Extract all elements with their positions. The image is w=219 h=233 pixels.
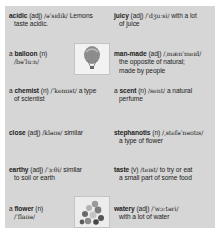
pronunciation: /ˈɜːθi/ (45, 166, 61, 173)
vocab-entry-close: close (adj) /kləʊs/ similar (9, 129, 109, 137)
headword: chemist (14, 87, 39, 94)
flower-illustration (74, 196, 110, 228)
pronunciation: /ˈwɔːtəri/ (151, 205, 178, 212)
flower-bouquet-icon (75, 197, 109, 227)
pronunciation: /ˈkemɪst/ (51, 87, 77, 94)
part-of-speech: (n) (35, 205, 43, 212)
part-of-speech: (adj) (136, 205, 149, 212)
vocab-entry-chemist: a chemist (n) /ˈkemɪst/ a type of scient… (9, 87, 109, 104)
headword: balloon (14, 50, 37, 57)
definition-continued: a small part of some food (114, 174, 214, 182)
headword: flower (14, 205, 33, 212)
article: a (9, 205, 13, 212)
vocabulary-panel: acidic (adj) /əˈsɪdɪk/ Lemons taste acid… (5, 6, 215, 228)
part-of-speech: (adj) (30, 166, 43, 173)
definition: with a lot of water (114, 213, 214, 221)
vocab-entry-watery: watery (adj) /ˈwɔːtəri/ with a lot of wa… (114, 205, 214, 222)
headword: taste (114, 166, 129, 173)
part-of-speech: (n) (41, 87, 49, 94)
pronunciation: /sent/ (148, 87, 165, 94)
pronunciation: /ˌstefəˈnəʊtɪs/ (162, 129, 203, 136)
vocab-entry-acidic: acidic (adj) /əˈsɪdɪk/ Lemons taste acid… (9, 12, 109, 29)
article: a (9, 50, 13, 57)
vocab-entry-earthy: earthy (adj) /ˈɜːθi/ similar to soil or … (9, 166, 109, 183)
definition-continued: perfume (114, 95, 214, 103)
balloon-illustration (74, 43, 110, 75)
article: a (9, 87, 13, 94)
vocab-entry-stephanotis: stephanotis (n) /ˌstefəˈnəʊtɪs/ a type o… (114, 129, 214, 146)
pronunciation: /ˈflaʊə/ (9, 213, 69, 221)
headword: acidic (9, 12, 27, 19)
vocab-entry-man-made: man-made (adj) /ˌmænˈmeɪd/ the opposite … (114, 50, 214, 75)
hot-air-balloon-icon (75, 44, 109, 74)
vocab-entry-scent: a scent (n) /sent/ a natural perfume (114, 87, 214, 104)
definition: similar (63, 166, 82, 173)
headword: close (9, 129, 26, 136)
pronunciation: /teɪst/ (140, 166, 158, 173)
definition: a natural (167, 87, 192, 94)
vocab-entry-taste: taste (v) /teɪst/ to try or eat a small … (114, 166, 214, 183)
vocab-entry-balloon: a balloon (n) /bəˈluːn/ (9, 50, 69, 67)
part-of-speech: (n) (152, 129, 160, 136)
headword: scent (119, 87, 136, 94)
definition: a type (79, 87, 97, 94)
pronunciation: /əˈsɪdɪk/ (44, 12, 68, 19)
pronunciation: /ˌmænˈmeɪd/ (163, 50, 201, 57)
definition-continued: to soil or earth (9, 174, 109, 182)
headword: man-made (114, 50, 147, 57)
definition: with a lot (171, 12, 197, 19)
part-of-speech: (n) (39, 50, 47, 57)
part-of-speech: (v) (131, 166, 139, 173)
headword: juicy (114, 12, 129, 19)
part-of-speech: (adj) (29, 12, 42, 19)
definition-continued: taste acidic. (9, 20, 109, 28)
part-of-speech: (adj) (131, 12, 144, 19)
definition: to try or eat (160, 166, 193, 173)
headword: stephanotis (114, 129, 150, 136)
headword: watery (114, 205, 135, 212)
vocab-entry-flower: a flower (n) /ˈflaʊə/ (9, 205, 69, 222)
definition-continued: made by people (114, 67, 214, 75)
definition: a type of flower (114, 137, 214, 145)
definition: Lemons (70, 12, 93, 19)
definition-continued: of scientist (9, 95, 109, 103)
pronunciation: /ˈdʒuːsi/ (145, 12, 169, 19)
vocab-entry-juicy: juicy (adj) /ˈdʒuːsi/ with a lot of juic… (114, 12, 214, 29)
definition: the opposite of natural; (114, 58, 214, 66)
pronunciation: /kləʊs/ (42, 129, 62, 136)
part-of-speech: (adj) (27, 129, 40, 136)
part-of-speech: (adj) (148, 50, 161, 57)
definition: similar (64, 129, 83, 136)
article: a (114, 87, 118, 94)
definition-continued: of juice (114, 20, 214, 28)
part-of-speech: (n) (138, 87, 146, 94)
pronunciation: /bəˈluːn/ (9, 58, 69, 66)
headword: earthy (9, 166, 29, 173)
